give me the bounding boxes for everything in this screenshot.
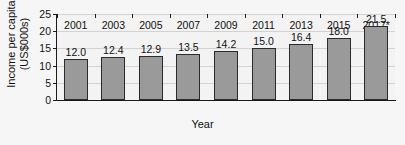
x-axis-line bbox=[56, 100, 396, 101]
bar-value-label: 12.4 bbox=[103, 44, 123, 56]
y-tick-mark bbox=[53, 31, 57, 32]
bar-value-label: 14.2 bbox=[216, 38, 236, 50]
bar-value-label: 18.0 bbox=[328, 25, 348, 37]
bar-value-label: 21.5 bbox=[366, 13, 386, 25]
y-tick-label: 10 bbox=[39, 60, 51, 72]
x-tick-label: 2013 bbox=[289, 19, 312, 31]
bar-value-label: 15.0 bbox=[253, 35, 273, 47]
x-tick-mark bbox=[57, 14, 58, 18]
bar: 12.9 bbox=[139, 56, 163, 100]
x-tick-mark bbox=[170, 14, 171, 18]
x-tick-mark bbox=[395, 14, 396, 18]
y-tick-mark bbox=[53, 83, 57, 84]
bar: 15.0 bbox=[252, 48, 276, 100]
x-tick-label: 2009 bbox=[214, 19, 237, 31]
bar: 16.4 bbox=[289, 44, 313, 100]
bar: 13.5 bbox=[176, 54, 200, 100]
y-tick-label: 15 bbox=[39, 42, 51, 54]
y-tick-mark bbox=[53, 100, 57, 101]
bar-value-label: 12.9 bbox=[141, 43, 161, 55]
bar-value-label: 13.5 bbox=[178, 41, 198, 53]
bar: 12.4 bbox=[101, 57, 125, 100]
y-tick-label: 5 bbox=[45, 77, 51, 89]
x-tick-label: 2005 bbox=[139, 19, 162, 31]
bar: 12.0 bbox=[64, 59, 88, 100]
x-tick-label: 2011 bbox=[252, 19, 275, 31]
bar: 21.5 bbox=[364, 26, 388, 100]
y-tick-mark bbox=[53, 48, 57, 49]
bar-value-label: 16.4 bbox=[291, 31, 311, 43]
x-tick-label: 2007 bbox=[177, 19, 200, 31]
y-axis-title-line-2: (US$000s) bbox=[18, 18, 31, 71]
y-axis-title: Income per capita (US$000s) bbox=[3, 0, 33, 100]
x-tick-mark bbox=[320, 14, 321, 18]
x-axis-title: Year bbox=[0, 118, 405, 130]
bar-chart-figure: Income per capita (US$000s) 0510152025 2… bbox=[0, 0, 405, 145]
x-tick-mark bbox=[207, 14, 208, 18]
x-tick-mark bbox=[132, 14, 133, 18]
bar: 18.0 bbox=[327, 38, 351, 100]
x-tick-mark bbox=[95, 14, 96, 18]
x-tick-label: 2001 bbox=[64, 19, 87, 31]
y-tick-label: 25 bbox=[39, 8, 51, 20]
x-tick-mark bbox=[357, 14, 358, 18]
y-axis-title-line-1: Income per capita bbox=[5, 0, 18, 87]
plot-area: 0510152025 20012003200520072009201120132… bbox=[57, 14, 395, 100]
x-tick-mark bbox=[245, 14, 246, 18]
bar-value-label: 12.0 bbox=[66, 46, 86, 58]
gridline bbox=[57, 14, 395, 15]
y-tick-label: 0 bbox=[45, 94, 51, 106]
x-tick-mark bbox=[282, 14, 283, 18]
bar: 14.2 bbox=[214, 51, 238, 100]
y-tick-label: 20 bbox=[39, 25, 51, 37]
x-tick-label: 2003 bbox=[102, 19, 125, 31]
y-tick-mark bbox=[53, 66, 57, 67]
